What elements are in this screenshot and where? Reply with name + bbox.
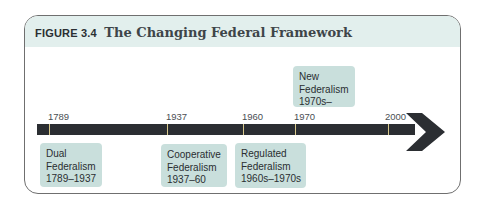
tick-2000 xyxy=(388,124,389,135)
era-dates: 1960s–1970s xyxy=(241,173,301,186)
year-label-1937: 1937 xyxy=(166,112,187,122)
tick-1970 xyxy=(295,124,296,135)
era-box-dual-federalism: Dual Federalism 1789–1937 xyxy=(40,143,102,187)
figure-header: FIGURE 3.4 The Changing Federal Framewor… xyxy=(25,16,460,47)
arrow-right-icon xyxy=(406,113,446,151)
year-label-1960: 1960 xyxy=(242,112,263,122)
year-label-1970: 1970 xyxy=(294,112,315,122)
figure-title: FIGURE 3.4 The Changing Federal Framewor… xyxy=(35,24,352,41)
era-name: Cooperative xyxy=(167,149,222,162)
era-name: Dual xyxy=(46,148,97,161)
era-dates: 1937–60 xyxy=(167,174,222,187)
era-name: Federalism xyxy=(167,162,222,175)
era-name: Federalism xyxy=(241,161,301,174)
era-box-new-federalism: New Federalism 1970s– xyxy=(293,66,355,107)
tick-1960 xyxy=(243,124,244,135)
era-name: Federalism xyxy=(299,84,350,97)
era-dates: 1970s– xyxy=(299,96,350,109)
era-box-regulated-federalism: Regulated Federalism 1960s–1970s xyxy=(235,143,306,188)
tick-1937 xyxy=(167,124,168,135)
figure-number: FIGURE 3.4 xyxy=(35,27,97,39)
year-label-2000: 2000 xyxy=(385,112,406,122)
figure-caption: The Changing Federal Framework xyxy=(104,25,352,40)
era-name: New xyxy=(299,71,350,84)
tick-1789 xyxy=(49,124,50,135)
era-dates: 1789–1937 xyxy=(46,173,97,186)
era-name: Federalism xyxy=(46,161,97,174)
era-name: Regulated xyxy=(241,148,301,161)
timeline-arrow-shaft xyxy=(37,124,415,135)
year-label-1789: 1789 xyxy=(48,112,69,122)
era-box-cooperative-federalism: Cooperative Federalism 1937–60 xyxy=(161,144,227,187)
